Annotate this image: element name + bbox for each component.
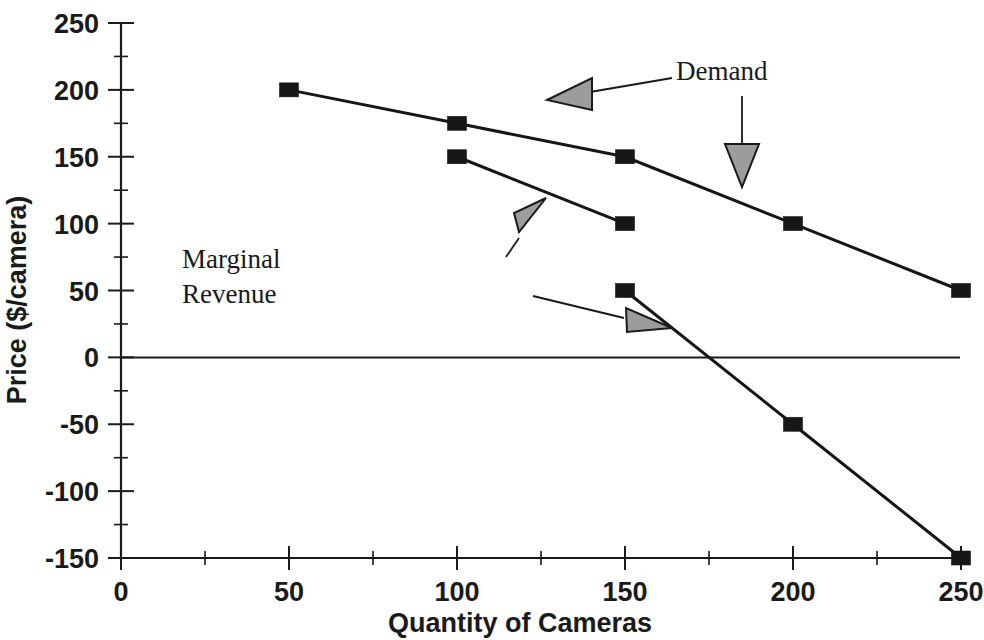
- data-point-marker: [616, 284, 635, 298]
- mr-lower-leader-line: [533, 296, 624, 318]
- y-tick-label: 200: [54, 76, 99, 106]
- x-tick-label: 0: [113, 577, 128, 607]
- x-axis-tick-labels: 050100150200250: [113, 577, 983, 607]
- x-tick-label: 250: [938, 577, 983, 607]
- demand-label: Demand: [676, 56, 768, 86]
- y-tick-label: -150: [45, 544, 99, 574]
- data-series-group: [280, 83, 971, 565]
- data-point-marker: [784, 417, 803, 431]
- data-point-marker: [952, 551, 971, 565]
- annotation-demand: Demand: [547, 56, 768, 187]
- y-axis-tick-labels: 250200150100500-50-100-150: [45, 9, 99, 574]
- series-line: [457, 157, 625, 224]
- demand-leader-line: [590, 78, 672, 92]
- x-tick-label: 100: [434, 577, 479, 607]
- chart-container: 250200150100500-50-100-150 0501001502002…: [0, 0, 984, 640]
- x-tick-label: 50: [274, 577, 304, 607]
- demand-arrow-left-icon: [547, 78, 592, 110]
- x-tick-label: 150: [602, 577, 647, 607]
- y-tick-label: 50: [69, 277, 99, 307]
- data-point-marker: [952, 284, 971, 298]
- data-point-marker: [616, 217, 635, 231]
- y-tick-label: 250: [54, 9, 99, 39]
- x-tick-label: 200: [770, 577, 815, 607]
- price-quantity-chart: 250200150100500-50-100-150 0501001502002…: [0, 0, 984, 640]
- data-point-marker: [448, 150, 467, 164]
- data-point-marker: [280, 83, 299, 97]
- y-tick-label: 0: [84, 343, 99, 373]
- series-line: [289, 90, 961, 291]
- marginal-revenue-label-line2: Revenue: [182, 279, 276, 309]
- y-tick-label: -100: [45, 477, 99, 507]
- mr-upper-leader-line: [506, 238, 519, 257]
- y-axis-title: Price ($/camera): [2, 196, 32, 405]
- data-point-marker: [616, 150, 635, 164]
- y-tick-label: -50: [60, 410, 99, 440]
- data-point-marker: [448, 116, 467, 130]
- annotation-marginal-revenue: Marginal Revenue: [182, 198, 672, 332]
- mr-arrow-right-icon: [626, 308, 672, 332]
- y-tick-label: 100: [54, 210, 99, 240]
- mr-arrow-up-icon: [514, 198, 546, 232]
- x-axis-title: Quantity of Cameras: [388, 608, 652, 638]
- demand-arrow-down-icon: [725, 144, 759, 187]
- marginal-revenue-label-line1: Marginal: [182, 244, 280, 274]
- data-point-marker: [784, 217, 803, 231]
- y-tick-label: 150: [54, 143, 99, 173]
